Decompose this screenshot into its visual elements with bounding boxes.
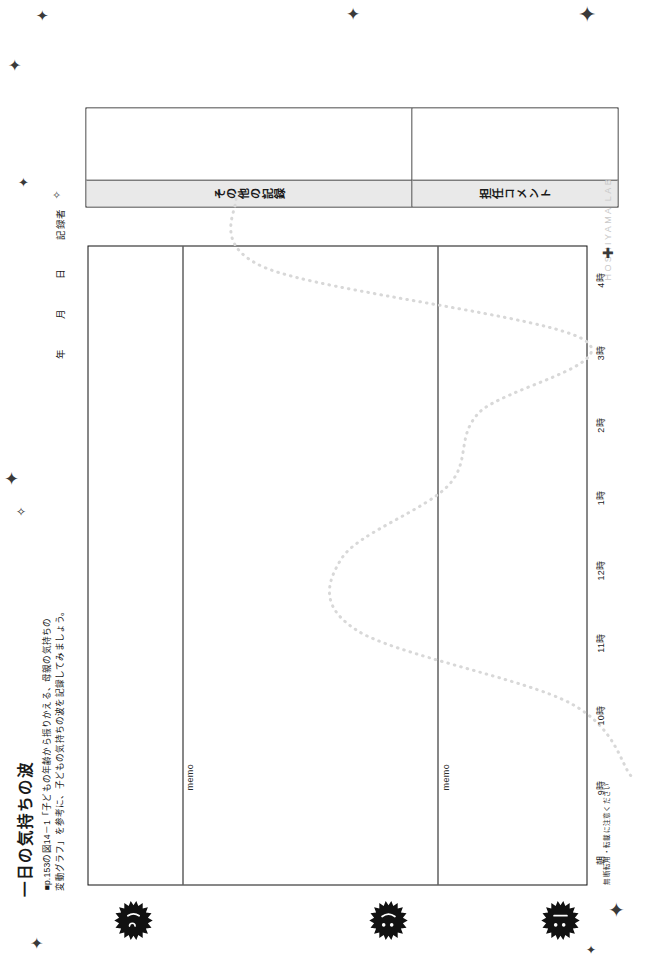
sparkle-icon: ✦ xyxy=(608,900,625,920)
page-subtitle: ■p.153の図14－1「子どもの年齢から振りかえる、母親の気持ちの 変動グラフ… xyxy=(40,606,66,890)
sparkle-icon: ✚ xyxy=(602,246,614,260)
date-field-month[interactable]: 月 xyxy=(54,308,65,319)
sparkle-icon: ✦ xyxy=(4,470,19,488)
date-field-day[interactable]: 日 xyxy=(54,268,65,279)
x-tick-6: 2時 xyxy=(593,418,606,433)
sun-face-neutral-icon xyxy=(540,900,580,940)
x-tick-2: 10時 xyxy=(593,705,606,725)
sparkle-icon: ✦ xyxy=(30,936,43,952)
mood-wave-chart[interactable]: memo memo 朝9時10時11時12時1時2時3時4時 xyxy=(87,245,587,885)
sparkle-icon: ✦ xyxy=(346,6,360,23)
sun-face-smile-icon xyxy=(368,900,408,940)
x-tick-3: 11時 xyxy=(593,633,606,652)
sparkle-icon: ✧ xyxy=(16,506,26,518)
sun-face-wink-icon xyxy=(113,900,153,940)
x-tick-4: 12時 xyxy=(593,560,606,580)
worksheet-page: 一日の気持ちの波 ■p.153の図14－1「子どもの年齢から振りかえる、母親の気… xyxy=(0,0,645,970)
date-field-year[interactable]: 年 xyxy=(54,348,65,359)
sparkle-icon: ✦ xyxy=(586,944,596,956)
watermark-label: HOSHIYAMA LAB xyxy=(602,176,612,280)
x-tick-5: 1時 xyxy=(593,490,606,505)
sparkle-icon: ✧ xyxy=(52,190,61,201)
mood-wave-curve xyxy=(175,159,645,799)
sparkle-icon: ✦ xyxy=(36,8,49,23)
date-recorder-line: 年 月 日 記録者 xyxy=(52,208,66,358)
sparkle-icon: ✦ xyxy=(578,4,596,26)
x-tick-7: 3時 xyxy=(593,345,606,360)
date-field-recorder[interactable]: 記録者 xyxy=(54,208,65,240)
copyright-note: 無断転用・転載に注意ください xyxy=(600,782,610,884)
sparkle-icon: ✦ xyxy=(18,176,29,189)
page-title: 一日の気持ちの波 xyxy=(12,760,34,896)
sparkle-icon: ✦ xyxy=(8,58,21,74)
